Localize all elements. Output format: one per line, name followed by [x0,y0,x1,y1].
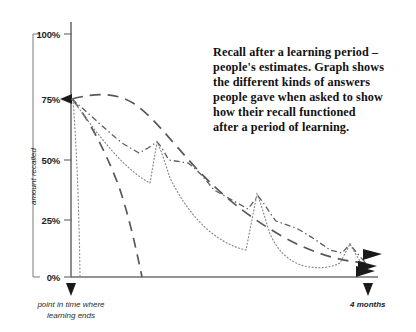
recall-decay-chart-figure: 100% 75% 50% 25% 0% amount recalled poin… [0,0,416,332]
y-tick-label-0: 0% [18,272,60,283]
curve-end-arrows [356,249,382,277]
start-point-arrow-icon [60,94,72,104]
series-immediate-total-loss [73,99,80,277]
y-axis-title: amount recalled [29,148,38,205]
end-arrow-icon-1 [363,249,382,260]
y-tick-label-75: 75% [18,94,60,105]
y-tick-label-100: 100% [18,29,60,40]
y-tick-label-25: 25% [18,215,60,226]
y-tick-label-50: 50% [18,155,60,166]
learning-ends-marker-icon [66,283,76,296]
series-steep-drop-to-zero [72,99,142,277]
learning-ends-note: point in time where learning ends [6,299,136,321]
four-months-marker-icon [363,283,373,296]
chart-caption: Recall after a learning period – people'… [213,45,409,136]
four-months-label: 4 months [350,300,386,309]
